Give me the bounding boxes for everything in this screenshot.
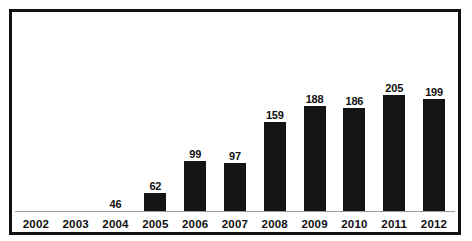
- bar-value-label: 186: [346, 95, 364, 107]
- bar-rect: [383, 95, 405, 211]
- bar-column-2003[interactable]: 2003: [56, 16, 96, 229]
- x-tick-cell: 2009: [295, 212, 335, 236]
- x-tick-label: 2005: [142, 218, 168, 230]
- x-tick-label: 2007: [222, 218, 248, 230]
- bar-rect: [224, 163, 246, 211]
- x-tick-cell: 2002: [16, 212, 56, 236]
- x-tick-label: 2011: [381, 218, 407, 230]
- bar-column-2004[interactable]: 46 2004: [96, 16, 136, 229]
- bar-column-2002[interactable]: 2002: [16, 16, 56, 229]
- bar-columns: 2002 2003 46 2004: [16, 16, 454, 229]
- bar-rect: [184, 161, 206, 211]
- x-tick-cell: 2011: [374, 212, 414, 236]
- x-tick-label: 2003: [63, 218, 89, 230]
- bar-plot-slot: 46: [96, 16, 136, 211]
- x-tick-cell: 2003: [56, 212, 96, 236]
- bar-plot-slot: 159: [255, 16, 295, 211]
- bar-plot-slot: [56, 16, 96, 211]
- bar-column-2005[interactable]: 62 2005: [135, 16, 175, 229]
- bar-value-label: 188: [306, 93, 324, 105]
- bar-value-label: 99: [189, 148, 201, 160]
- bar-column-2012[interactable]: 199 2012: [414, 16, 454, 229]
- x-tick-cell: 2006: [175, 212, 215, 236]
- bar-value-label: 205: [385, 82, 403, 94]
- chart-frame: 2002 2003 46 2004: [9, 9, 461, 235]
- bar-plot-slot: 199: [414, 16, 454, 211]
- bar-column-2011[interactable]: 205 2011: [374, 16, 414, 229]
- x-tick-label: 2012: [421, 218, 447, 230]
- bar-column-2007[interactable]: 97 2007: [215, 16, 255, 229]
- bar-rect: [304, 106, 326, 211]
- x-tick-label: 2009: [301, 218, 327, 230]
- x-tick-cell: 2010: [335, 212, 375, 236]
- bar-value-label: 62: [149, 180, 161, 192]
- bar-column-2009[interactable]: 188 2009: [295, 16, 335, 229]
- bar-rect: [144, 193, 166, 211]
- bar-plot-slot: 99: [175, 16, 215, 211]
- bar-plot-slot: 186: [335, 16, 375, 211]
- x-tick-label: 2008: [262, 218, 288, 230]
- x-tick-label: 2010: [341, 218, 367, 230]
- bar-plot-slot: 188: [295, 16, 335, 211]
- bar-plot-slot: 62: [135, 16, 175, 211]
- x-tick-label: 2006: [182, 218, 208, 230]
- x-tick-cell: 2005: [135, 212, 175, 236]
- x-tick-label: 2002: [23, 218, 49, 230]
- bar-plot-slot: 97: [215, 16, 255, 211]
- bar-value-label: 159: [266, 109, 284, 121]
- bar-rect: [343, 108, 365, 211]
- bar-plot-slot: 205: [374, 16, 414, 211]
- bar-value-label: 199: [425, 86, 443, 98]
- bar-column-2008[interactable]: 159 2008: [255, 16, 295, 229]
- bar-rect: [423, 99, 445, 211]
- bar-value-label: 46: [110, 198, 122, 210]
- x-tick-cell: 2008: [255, 212, 295, 236]
- x-tick-cell: 2004: [96, 212, 136, 236]
- x-tick-cell: 2007: [215, 212, 255, 236]
- bar-plot-slot: [16, 16, 56, 211]
- bar-value-label: 97: [229, 150, 241, 162]
- x-tick-cell: 2012: [414, 212, 454, 236]
- bar-column-2006[interactable]: 99 2006: [175, 16, 215, 229]
- bar-column-2010[interactable]: 186 2010: [335, 16, 375, 229]
- bar-rect: [264, 122, 286, 211]
- plot-area: 2002 2003 46 2004: [12, 12, 458, 232]
- x-tick-label: 2004: [102, 218, 128, 230]
